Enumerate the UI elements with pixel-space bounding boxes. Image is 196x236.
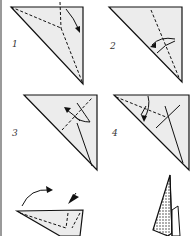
step-6 <box>153 175 180 236</box>
step-3-number: 3 <box>12 128 18 138</box>
step-1: 1 <box>11 2 83 84</box>
step-4-number: 4 <box>111 128 118 138</box>
step-6-model <box>153 175 172 236</box>
step-2-paper <box>109 7 182 82</box>
step-4-paper <box>114 95 189 170</box>
step-6-flap <box>172 206 180 236</box>
step-3: 3 <box>12 95 97 170</box>
step-2-number: 2 <box>109 41 116 51</box>
origami-diagram: 1 2 3 4 <box>0 0 196 236</box>
step-3-paper <box>24 95 97 170</box>
step-1-paper <box>11 7 83 84</box>
step-5 <box>17 186 83 236</box>
step-4: 4 <box>111 95 189 170</box>
step-2: 2 <box>109 7 182 82</box>
step-5-arrowhead-icon <box>46 186 53 193</box>
step-1-number: 1 <box>12 39 18 49</box>
step-5-turn-arrow <box>22 190 50 206</box>
